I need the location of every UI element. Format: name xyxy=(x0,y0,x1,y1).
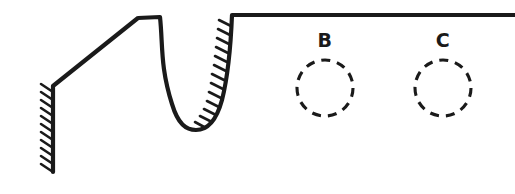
hatch-tick xyxy=(200,116,212,122)
technical-drawing-figure: B C xyxy=(0,0,515,194)
hatch-tick xyxy=(216,47,228,53)
hatch-tick xyxy=(214,65,226,71)
hatch-tick xyxy=(218,29,230,35)
hole-b-dashed-circle xyxy=(297,60,353,116)
hatch-tick xyxy=(212,74,224,80)
hatch-tick xyxy=(209,92,221,98)
hole-c-label: C xyxy=(436,29,450,51)
hole-b-label: B xyxy=(318,29,333,51)
hole-c-dashed-circle xyxy=(415,60,471,116)
hatch-tick xyxy=(217,38,229,44)
hole-b-group: B xyxy=(297,29,353,116)
drawing-canvas: B C xyxy=(0,0,515,194)
hatch-tick xyxy=(215,56,227,62)
hatch-tick xyxy=(219,20,231,26)
hatch-tick xyxy=(207,101,219,107)
hatch-tick xyxy=(195,122,206,128)
hole-c-group: C xyxy=(415,29,471,116)
hatch-tick xyxy=(204,109,216,115)
hatch-tick xyxy=(211,83,223,89)
